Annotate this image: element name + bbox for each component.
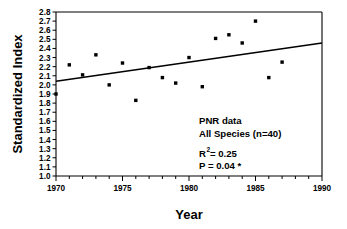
data-point-marker [54, 92, 57, 95]
p-value-label: P = 0.04 * [199, 160, 241, 171]
data-point-marker [147, 66, 150, 69]
data-point-marker [267, 76, 270, 79]
y-tick-label: 2.8 [39, 8, 51, 17]
data-point-marker [81, 73, 84, 76]
y-tick-label: 2.6 [39, 26, 51, 35]
data-point-marker [254, 19, 257, 22]
data-point-marker [94, 53, 97, 56]
annotation-r-squared: R 2 = 0.25 [199, 146, 238, 159]
chart-figure: 1.01.11.21.31.41.51.61.71.81.92.02.12.22… [0, 0, 347, 229]
data-point-marker [174, 81, 177, 84]
x-tick-label: 1970 [47, 184, 66, 193]
y-tick-label: 1.1 [39, 163, 51, 172]
scatter-plot: 1.01.11.21.31.41.51.61.71.81.92.02.12.22… [0, 0, 347, 229]
data-point-marker [201, 85, 204, 88]
y-tick-label: 1.5 [39, 126, 51, 135]
y-axis-title: Standardized Index [10, 34, 25, 154]
y-tick-label: 2.2 [39, 63, 51, 72]
data-point-marker [214, 37, 217, 40]
data-point-marker [241, 41, 244, 44]
y-tick-label: 2.5 [39, 35, 51, 44]
x-tick-label: 1985 [246, 184, 265, 193]
x-axis-title: Year [175, 207, 202, 222]
data-point-marker [108, 83, 111, 86]
y-tick-label: 2.7 [39, 17, 51, 26]
y-tick-label: 1.9 [39, 90, 51, 99]
annotation-species-label: All Species (n=40) [199, 128, 281, 139]
data-point-marker [68, 63, 71, 66]
y-tick-label: 2.1 [39, 72, 51, 81]
r-squared-symbol: R [199, 148, 206, 159]
y-tick-label: 1.3 [39, 145, 51, 154]
y-tick-label: 2.4 [39, 44, 51, 53]
data-point-marker [161, 76, 164, 79]
data-point-marker [280, 60, 283, 63]
y-tick-label: 1.0 [39, 172, 51, 181]
x-tick-label: 1980 [180, 184, 199, 193]
r-squared-value: = 0.25 [210, 148, 238, 159]
y-tick-label: 1.6 [39, 117, 51, 126]
data-point-marker [134, 99, 137, 102]
y-tick-label: 2.0 [39, 81, 51, 90]
annotation-dataset-label: PNR data [199, 115, 242, 126]
y-tick-label: 1.4 [39, 136, 51, 145]
x-tick-label: 1990 [313, 184, 332, 193]
data-point-marker [121, 61, 124, 64]
data-point-marker [227, 33, 230, 36]
y-tick-label: 1.7 [39, 108, 51, 117]
x-tick-label: 1975 [113, 184, 132, 193]
y-tick-label: 1.8 [39, 99, 51, 108]
y-tick-label: 1.2 [39, 154, 51, 163]
chart-background [0, 0, 347, 229]
y-tick-label: 2.3 [39, 54, 51, 63]
data-point-marker [187, 56, 190, 59]
